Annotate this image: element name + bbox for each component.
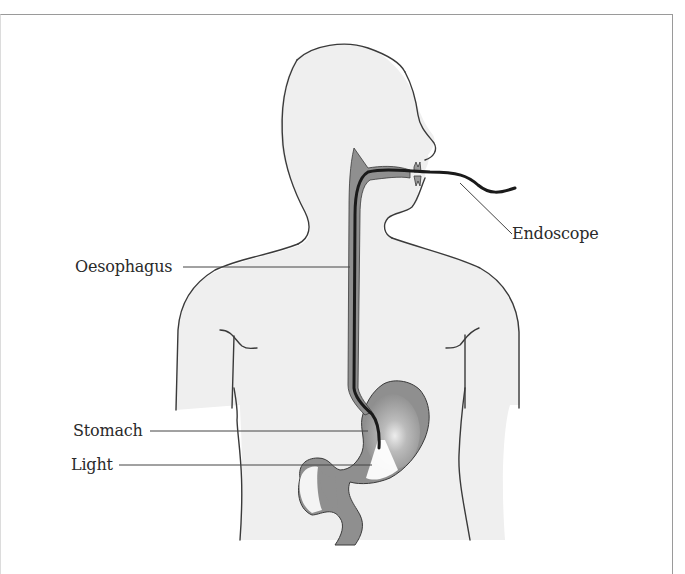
label-light: Light [71,457,113,473]
label-oesophagus: Oesophagus [75,259,172,275]
body-silhouette [175,44,520,540]
label-endoscope: Endoscope [512,226,599,242]
label-stomach: Stomach [73,423,143,439]
